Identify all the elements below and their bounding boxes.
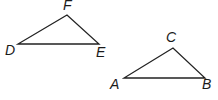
triangle-def — [18, 15, 99, 44]
triangle-abc — [124, 48, 205, 78]
vertex-label-b: B — [202, 76, 211, 92]
diagram-canvas: F D E C A B — [0, 0, 218, 100]
vertex-label-e: E — [96, 44, 106, 60]
triangles-figure: F D E C A B — [0, 0, 218, 100]
vertex-label-f: F — [63, 0, 73, 13]
vertex-label-d: D — [5, 42, 15, 58]
vertex-label-a: A — [109, 76, 119, 92]
vertex-label-c: C — [166, 29, 177, 45]
